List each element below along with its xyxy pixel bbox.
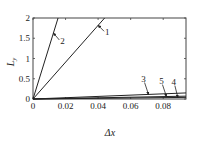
y-tick-label: 0 (26, 94, 31, 104)
curve-label-4: 4 (172, 77, 177, 87)
curve-label-3: 3 (141, 74, 146, 84)
x-tick-label: 0.06 (123, 101, 139, 111)
y-tick-label: 0.5 (19, 74, 31, 84)
x-tick-label: 0.08 (155, 101, 171, 111)
x-axis-label: Δx (104, 127, 116, 138)
curve-label-2: 2 (60, 36, 65, 46)
curve-label-5: 5 (159, 76, 164, 86)
y-axis-label: Ly (5, 57, 18, 68)
series-line-2 (33, 18, 58, 99)
curve-labels: 12354 (53, 25, 178, 97)
x-tick-label: 0.02 (58, 101, 74, 111)
series-line-1 (33, 18, 105, 99)
x-tick-label: 0.04 (90, 101, 106, 111)
curve-label-1: 1 (105, 27, 110, 37)
line-chart: 00.020.040.060.0800.511.52 12354 Δx Ly (0, 0, 200, 141)
y-tick-label: 1.5 (19, 33, 31, 43)
x-tick-label: 0 (31, 101, 36, 111)
y-tick-label: 2 (26, 13, 31, 23)
y-tick-label: 1 (26, 54, 31, 64)
